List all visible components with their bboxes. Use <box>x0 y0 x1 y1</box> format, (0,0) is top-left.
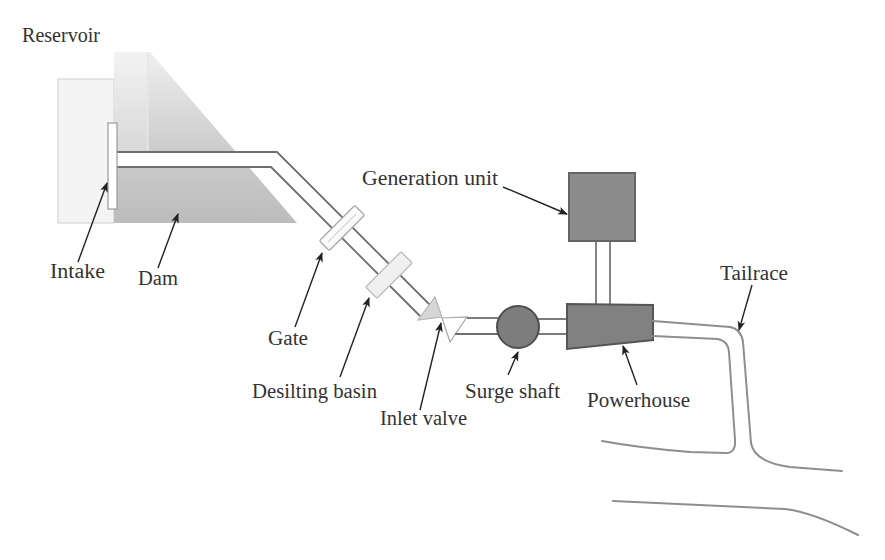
label-reservoir: Reservoir <box>22 24 100 46</box>
powerhouse <box>567 304 653 349</box>
arrow-surge-shaft <box>508 352 518 375</box>
dam-crest-band <box>114 52 148 152</box>
reservoir-water <box>58 79 114 223</box>
label-dam: Dam <box>138 267 178 289</box>
inlet-valve-downstream-triangle <box>442 317 467 342</box>
label-powerhouse: Powerhouse <box>587 389 690 411</box>
river-bank <box>613 501 858 535</box>
arrow-inlet-valve <box>420 323 441 410</box>
surge-shaft <box>497 306 539 348</box>
label-desilting-basin: Desilting basin <box>252 380 377 403</box>
diagram-svg: Reservoir Intake Dam Gate Desilting basi… <box>0 0 885 560</box>
hydropower-scheme-diagram: Reservoir Intake Dam Gate Desilting basi… <box>0 0 885 560</box>
arrow-powerhouse <box>623 346 637 385</box>
intake-structure <box>108 123 117 209</box>
label-surge-shaft: Surge shaft <box>465 380 560 403</box>
label-generation-unit: Generation unit <box>362 167 498 189</box>
label-gate: Gate <box>268 327 308 349</box>
label-intake: Intake <box>50 260 105 282</box>
arrow-tailrace <box>739 285 752 330</box>
label-tailrace: Tailrace <box>720 262 788 284</box>
arrow-gate <box>295 253 322 327</box>
arrow-generation-unit <box>503 187 567 214</box>
generation-unit <box>569 173 635 241</box>
arrow-desilting-basin <box>340 298 369 377</box>
label-inlet-valve: Inlet valve <box>380 407 467 429</box>
